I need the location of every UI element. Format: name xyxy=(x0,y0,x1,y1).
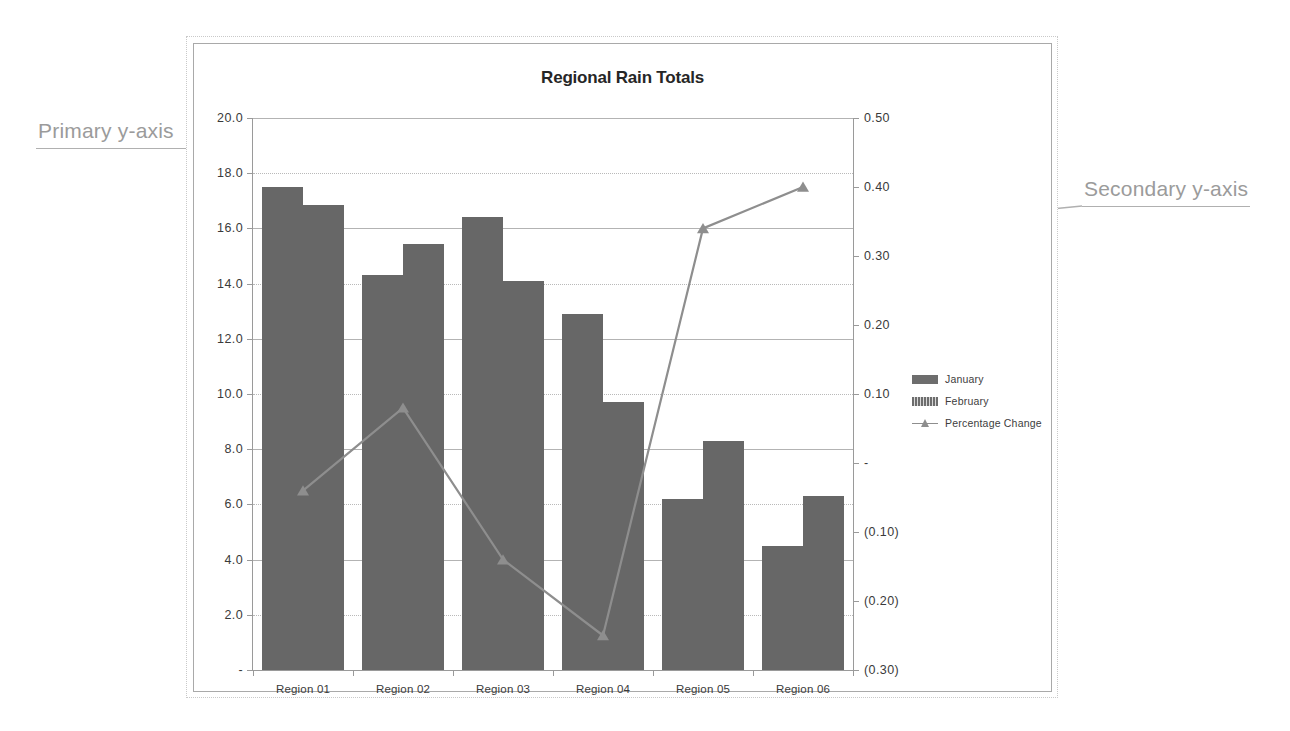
primary-y-axis-label: 6.0 xyxy=(224,497,243,511)
secondary-y-tick xyxy=(853,601,859,602)
x-axis-tick xyxy=(453,670,454,676)
x-axis-tick xyxy=(253,670,254,676)
annotation-secondary-underline xyxy=(1082,206,1250,207)
line-marker-triangle xyxy=(397,402,409,412)
chart-object: Regional Rain Totals 20.018.016.014.012.… xyxy=(186,36,1058,698)
percentage-change-line xyxy=(303,187,803,636)
secondary-y-axis-label: 0.30 xyxy=(864,249,890,263)
line-marker-triangle xyxy=(497,554,509,564)
secondary-y-axis-label: - xyxy=(864,456,869,470)
primary-y-axis-label: 16.0 xyxy=(217,221,243,235)
x-axis-label: Region 01 xyxy=(276,683,330,695)
annotation-primary-y-axis: Primary y-axis xyxy=(38,119,174,143)
secondary-y-axis-label: (0.10) xyxy=(864,525,899,539)
secondary-y-axis-label: 0.20 xyxy=(864,318,890,332)
secondary-y-axis-label: 0.50 xyxy=(864,111,890,125)
x-axis-label: Region 03 xyxy=(476,683,530,695)
secondary-y-axis-label: (0.30) xyxy=(864,663,899,677)
x-axis-tick xyxy=(353,670,354,676)
legend-item[interactable]: Percentage Change xyxy=(912,412,1042,434)
chart-title: Regional Rain Totals xyxy=(194,68,1051,88)
primary-y-axis-label: 20.0 xyxy=(217,111,243,125)
secondary-y-tick xyxy=(853,463,859,464)
secondary-y-axis-label: 0.10 xyxy=(864,387,890,401)
legend-swatch-icon xyxy=(912,397,938,406)
x-axis-tick xyxy=(753,670,754,676)
secondary-y-axis-label: 0.40 xyxy=(864,180,890,194)
x-axis-label: Region 05 xyxy=(676,683,730,695)
secondary-y-tick xyxy=(853,118,859,119)
legend-swatch-icon xyxy=(912,375,938,384)
plot-area: 20.018.016.014.012.010.08.06.04.02.0- 0.… xyxy=(253,118,853,670)
chart-legend: JanuaryFebruaryPercentage Change xyxy=(912,368,1042,434)
primary-y-axis-label: 12.0 xyxy=(217,332,243,346)
secondary-y-tick xyxy=(853,256,859,257)
x-axis-tick xyxy=(853,670,854,676)
legend-item-label: January xyxy=(945,373,984,385)
secondary-y-tick xyxy=(853,394,859,395)
primary-y-axis-label: 8.0 xyxy=(224,442,243,456)
primary-y-axis-label: - xyxy=(238,663,243,677)
primary-y-axis-label: 10.0 xyxy=(217,387,243,401)
legend-item[interactable]: February xyxy=(912,390,1042,412)
secondary-y-tick xyxy=(853,187,859,188)
line-series-layer xyxy=(253,118,853,670)
secondary-y-tick xyxy=(853,532,859,533)
x-axis-label: Region 02 xyxy=(376,683,430,695)
x-axis-tick xyxy=(653,670,654,676)
secondary-y-tick xyxy=(853,325,859,326)
x-axis-label: Region 04 xyxy=(576,683,630,695)
legend-item-label: Percentage Change xyxy=(945,417,1042,429)
line-marker-triangle xyxy=(697,223,709,233)
primary-y-axis-label: 14.0 xyxy=(217,277,243,291)
primary-y-axis-label: 18.0 xyxy=(217,166,243,180)
annotation-secondary-y-axis: Secondary y-axis xyxy=(1084,177,1248,201)
legend-line-marker-icon xyxy=(912,419,938,428)
primary-y-axis-label: 4.0 xyxy=(224,553,243,567)
legend-item-label: February xyxy=(945,395,989,407)
primary-y-axis-label: 2.0 xyxy=(224,608,243,622)
x-axis-tick xyxy=(553,670,554,676)
secondary-y-axis-label: (0.20) xyxy=(864,594,899,608)
line-marker-triangle xyxy=(797,182,809,192)
legend-item[interactable]: January xyxy=(912,368,1042,390)
chart-frame: Regional Rain Totals 20.018.016.014.012.… xyxy=(193,43,1052,692)
x-axis-label: Region 06 xyxy=(776,683,830,695)
